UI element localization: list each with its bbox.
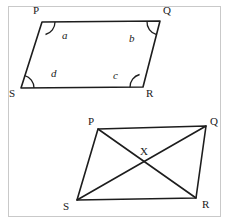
vertex-label-s-bottom: S	[63, 200, 69, 212]
vertex-label-r-top: R	[146, 87, 154, 99]
figure-sheet: P Q R S a b c d P Q R S X	[0, 0, 229, 223]
angle-label-b: b	[129, 32, 135, 44]
angle-arc-p	[46, 22, 56, 35]
vertex-label-q-top: Q	[163, 4, 171, 16]
vertex-label-q-bottom: Q	[210, 115, 218, 127]
angle-arc-r	[130, 75, 140, 88]
vertex-label-p-top: P	[33, 4, 39, 16]
intersection-label-x: X	[140, 145, 148, 157]
figure-bottom: P Q R S X	[63, 115, 218, 212]
figure-top: P Q R S a b c d	[9, 4, 171, 99]
angle-label-c: c	[113, 69, 118, 81]
geometry-canvas: P Q R S a b c d P Q R S X	[0, 0, 229, 223]
sheet-border	[9, 7, 221, 217]
angle-label-d: d	[51, 67, 57, 79]
parallelogram-outline-top	[21, 21, 160, 88]
vertex-label-p-bottom: P	[88, 115, 94, 127]
vertex-label-r-bottom: R	[202, 198, 210, 210]
angle-arc-q	[147, 21, 157, 34]
vertex-label-s-top: S	[9, 87, 15, 99]
angle-label-a: a	[62, 29, 68, 41]
angle-arc-s	[25, 76, 34, 88]
